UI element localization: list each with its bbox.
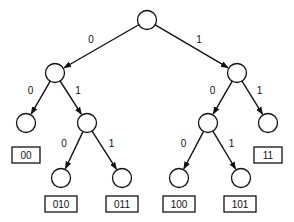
tree-node-n010 (52, 169, 71, 188)
edge-root-n0 (64, 25, 139, 68)
edge-label: 0 (28, 85, 34, 96)
tree-node-root (138, 11, 157, 30)
tree-node-n00 (17, 114, 36, 133)
leaf-code-box: 11 (254, 147, 282, 163)
edge-n1-n10 (213, 81, 232, 114)
leaf-code-box: 00 (12, 147, 40, 163)
edge-label: 1 (229, 138, 235, 149)
edge-label: 1 (109, 138, 115, 149)
tree-node-n01 (78, 114, 97, 133)
leaf-code-text: 100 (171, 199, 188, 210)
tree-node-n0 (46, 64, 65, 83)
edge-root-n1 (155, 25, 228, 68)
edge-label: 1 (196, 34, 202, 45)
edge-label: 1 (257, 85, 263, 96)
leaf-code-text: 011 (114, 199, 130, 210)
tree-node-n11 (259, 114, 278, 133)
edge-n0-n00 (31, 81, 50, 114)
edge-n10-n100 (184, 131, 204, 168)
tree-node-n100 (170, 169, 189, 188)
tree-node-n011 (113, 169, 132, 188)
edge-label: 1 (75, 85, 81, 96)
leaf-code-text: 010 (53, 199, 70, 210)
edge-label: 0 (88, 34, 94, 45)
edge-label: 0 (210, 85, 216, 96)
edge-n01-n010 (65, 132, 82, 169)
edge-label: 0 (61, 138, 67, 149)
leaf-code-box: 101 (224, 196, 256, 212)
leaf-code-text: 101 (232, 199, 249, 210)
edge-label: 0 (181, 138, 187, 149)
leaf-code-text: 11 (263, 150, 274, 161)
binary-tree-diagram: 0101010101 0011010011100101 (0, 0, 294, 222)
leaf-code-box: 010 (45, 196, 77, 212)
tree-node-n101 (232, 169, 251, 188)
tree-node-n10 (199, 114, 218, 133)
tree-node-n1 (228, 64, 247, 83)
leaf-code-box: 100 (163, 196, 195, 212)
leaf-code-box: 011 (106, 196, 138, 212)
leaf-code-text: 00 (20, 150, 32, 161)
